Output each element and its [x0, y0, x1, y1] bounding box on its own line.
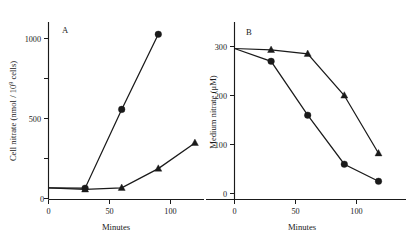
x-tick-label-100-b: 100 [350, 207, 362, 216]
x-tick-label-50-a: 50 [105, 207, 113, 216]
y-axis-title-a-tail: cells) [8, 61, 18, 82]
data-point-triangle-a [191, 139, 198, 145]
x-tick-label-50-b: 50 [291, 207, 299, 216]
y-axis-title-a: Cell nitrate (nmol / 109 cells) [7, 61, 18, 161]
x-tick-label-100-a: 100 [164, 207, 176, 216]
x-axis-title-b: Minutes [288, 222, 317, 232]
x-tick-label-0-a: 0 [46, 207, 50, 216]
y-tick-label-1000-a: 1000 [25, 35, 41, 44]
series-line-triangles-a [49, 143, 195, 190]
data-point-circle-b [268, 58, 275, 65]
series-line-triangles-b [235, 49, 379, 154]
data-point-circle-b [375, 178, 382, 185]
data-point-circle-b [304, 112, 311, 119]
data-point-circle-a [118, 106, 125, 113]
data-point-triangle-b [375, 150, 382, 156]
panel-label-a: A [62, 25, 69, 35]
data-point-triangle-a [155, 165, 162, 171]
panel-a-plot: 1000 500 0 0 50 100 Minutes Cell nitrate… [0, 0, 206, 252]
y-axis-title-a-main: Cell nitrate (nmol / 10 [8, 85, 18, 161]
panel-b: 300 200 100 0 0 50 100 Minutes Medium ni… [206, 0, 412, 252]
panel-b-plot: 300 200 100 0 0 50 100 Minutes Medium ni… [206, 0, 412, 252]
y-axis-title-b: Medium nitrate (μM) [208, 75, 218, 148]
y-tick-label-300-b: 300 [215, 43, 227, 52]
x-tick-label-0-b: 0 [232, 207, 236, 216]
y-tick-label-0-b: 0 [223, 190, 227, 199]
y-tick-label-500-a: 500 [29, 115, 41, 124]
series-line-circles-a [49, 34, 159, 188]
figure-container: 1000 500 0 0 50 100 Minutes Cell nitrate… [0, 0, 412, 252]
data-point-circle-a [155, 31, 162, 38]
data-point-circle-b [341, 161, 348, 168]
y-tick-label-0-a: 0 [40, 195, 44, 204]
panel-a: 1000 500 0 0 50 100 Minutes Cell nitrate… [0, 0, 206, 252]
x-axis-title-a: Minutes [102, 222, 131, 232]
panel-label-b: B [246, 27, 252, 37]
